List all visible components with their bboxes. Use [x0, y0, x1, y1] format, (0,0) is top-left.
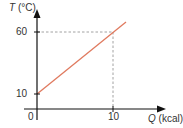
x-axis-unit: (kcal) — [156, 113, 183, 124]
x-axis-arrow-icon — [157, 106, 166, 113]
y-axis-unit: (°C) — [15, 2, 36, 13]
tick-label-x0: 0 — [28, 112, 34, 122]
chart: T (°C) 60 10 0 10 Q (kcal) — [0, 0, 183, 128]
x-axis-label: Q (kcal) — [148, 114, 183, 124]
y-axis-label: T (°C) — [9, 3, 36, 13]
tick-label-x10: 10 — [108, 112, 119, 122]
tick-label-y10: 10 — [16, 89, 27, 99]
x-axis-var: Q — [148, 113, 156, 124]
chart-plot — [0, 0, 183, 128]
tick-label-y60: 60 — [16, 27, 27, 37]
